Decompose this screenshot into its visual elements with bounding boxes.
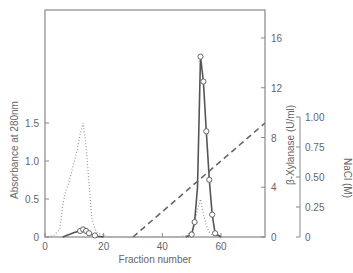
data-point-marker — [192, 219, 197, 224]
plot-frame — [45, 10, 265, 237]
data-point-marker — [213, 231, 218, 236]
series-layer — [45, 54, 265, 238]
data-point-marker — [207, 177, 212, 182]
data-point-marker — [86, 231, 91, 236]
data-point-marker — [204, 129, 209, 134]
y-right2-axis-title: NaCl (M) — [342, 158, 353, 198]
y-right-axis-ticks: 0481216 — [261, 33, 283, 243]
y-left-tick-label: 0 — [33, 232, 39, 243]
nacl-axis: 00.250.500.751.00 — [296, 112, 325, 243]
data-point-marker — [92, 233, 97, 238]
y-right-tick-label: 16 — [271, 33, 283, 44]
x-tick-label: 0 — [42, 241, 48, 252]
x-tick-label: 20 — [98, 241, 110, 252]
data-point-marker — [189, 232, 194, 237]
y-right-tick-label: 4 — [271, 182, 277, 193]
y-right-tick-label: 12 — [271, 83, 283, 94]
nacl-tick-label: 0.25 — [305, 202, 325, 213]
y-right-tick-label: 8 — [271, 133, 277, 144]
data-point-marker — [198, 54, 203, 59]
nacl-tick-label: 0 — [305, 232, 311, 243]
y-right-axis-title: β-Xylanase (U/ml) — [285, 105, 296, 185]
y-left-tick-label: 1.5 — [25, 118, 39, 129]
data-point-marker — [210, 212, 215, 217]
x-tick-label: 40 — [157, 241, 169, 252]
x-tick-label: 60 — [215, 241, 227, 252]
nacl-tick-label: 0.75 — [305, 142, 325, 153]
y-left-tick-label: 0.5 — [25, 194, 39, 205]
chart-canvas: 0204060 00.51.01.5 0481216 00.250.500.75… — [0, 0, 353, 273]
y-left-axis-title: Absorbance at 280nm — [9, 101, 20, 199]
nacl-tick-label: 1.00 — [305, 112, 325, 123]
x-axis-title: Fraction number — [119, 254, 192, 265]
data-point-marker — [201, 79, 206, 84]
y-right-tick-label: 0 — [271, 232, 277, 243]
y-left-tick-label: 1.0 — [25, 156, 39, 167]
nacl-tick-label: 0.50 — [305, 172, 325, 183]
